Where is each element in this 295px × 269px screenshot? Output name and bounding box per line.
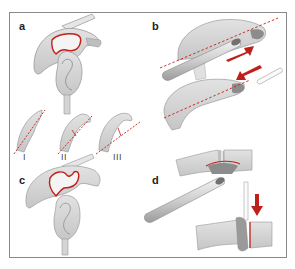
panel-c-scapula: [26, 154, 100, 255]
subtype-label-3: III: [113, 153, 122, 162]
figure-illustration: [0, 0, 295, 269]
panel-label-c: c: [19, 175, 25, 186]
panel-d-resection: [144, 148, 272, 251]
subtype-figures: [14, 110, 140, 154]
subtype-label-1: I: [23, 153, 26, 162]
panel-label-d: d: [152, 175, 159, 186]
panel-label-a: a: [19, 21, 25, 32]
panel-label-b: b: [152, 21, 159, 32]
panel-b-resection: [160, 18, 282, 130]
panel-a-scapula: [34, 14, 101, 114]
subtype-label-2: II: [61, 153, 67, 162]
